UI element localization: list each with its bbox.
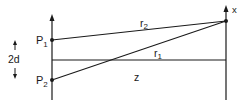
label-r2: r2 [140, 17, 149, 31]
label-z: z [134, 71, 139, 83]
label-x-axis: x [232, 4, 237, 15]
ray-from-p1 [52, 21, 226, 40]
x-axis-arrowhead-icon [224, 5, 229, 12]
source-axis-arrowhead-icon [50, 14, 55, 21]
label-p1: P1 [36, 34, 48, 49]
separation-arrow-down-icon [13, 74, 17, 79]
label-separation-2d: 2d [8, 53, 20, 65]
source-point-p1 [50, 38, 54, 42]
observation-point [224, 19, 228, 23]
separation-arrow-up-icon [13, 40, 17, 45]
source-point-p2 [50, 78, 54, 82]
two-source-geometry-diagram: P1 P2 2d r2 r1 z x [0, 0, 242, 106]
label-p2: P2 [36, 74, 48, 89]
label-r1: r1 [154, 47, 163, 61]
